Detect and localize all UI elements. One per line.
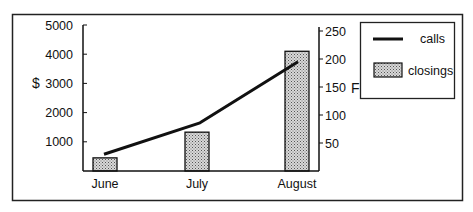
- chart: 1000200030004000500050100150200250$FJune…: [0, 0, 473, 212]
- bar-july: [185, 132, 209, 171]
- category-label-july: July: [186, 177, 209, 191]
- category-label-august: August: [278, 177, 317, 191]
- right-tick-label: 100: [325, 109, 346, 123]
- bar-june: [93, 158, 117, 171]
- left-tick-label: 2000: [45, 106, 73, 120]
- left-tick-label: 4000: [45, 48, 73, 62]
- right-tick-label: 250: [325, 25, 346, 39]
- left-axis-title: $: [32, 75, 40, 91]
- right-tick-label: 50: [325, 137, 339, 151]
- left-tick-label: 3000: [45, 77, 73, 91]
- legend-bar-swatch: [374, 63, 402, 77]
- left-tick-label: 5000: [45, 19, 73, 33]
- left-tick-label: 1000: [45, 135, 73, 149]
- legend: calls closings: [361, 23, 455, 99]
- legend-label-calls: calls: [420, 32, 445, 46]
- right-tick-label: 200: [325, 53, 346, 67]
- plot-area: 1000200030004000500050100150200250$FJune…: [32, 19, 360, 192]
- legend-label-closings: closings: [408, 64, 453, 78]
- right-tick-label: 150: [325, 81, 346, 95]
- right-axis-title: F: [351, 80, 360, 96]
- category-label-june: June: [91, 177, 118, 191]
